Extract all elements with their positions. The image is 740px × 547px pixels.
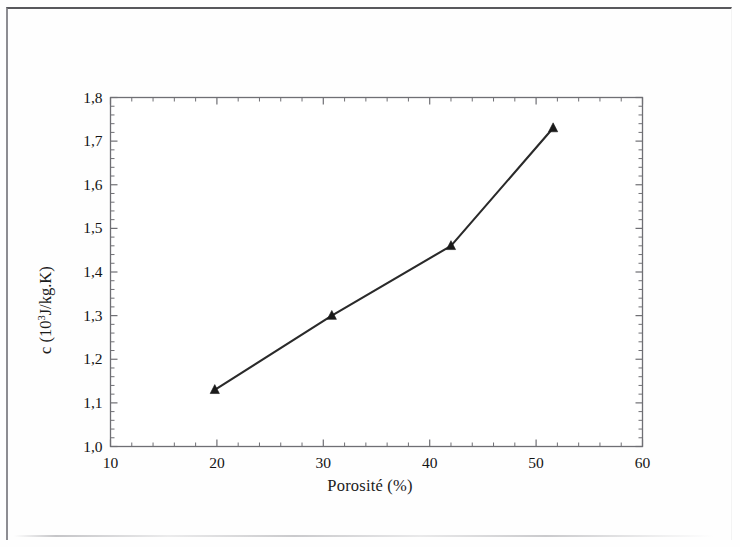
- y-axis-title-suffix: J/kg.K): [36, 266, 55, 315]
- x-tick-label-40: 40: [422, 454, 438, 472]
- y-tick-label-1,8: 1,8: [83, 89, 102, 107]
- y-tick-label-1,2: 1,2: [83, 350, 102, 368]
- y-axis-title-exponent: 3: [36, 315, 47, 320]
- y-tick-label-1,4: 1,4: [83, 263, 102, 281]
- x-tick-label-20: 20: [209, 454, 225, 472]
- x-tick-label-50: 50: [528, 454, 544, 472]
- x-tick-label-10: 10: [103, 454, 119, 472]
- y-axis-title: c (103J/kg.K): [36, 266, 56, 354]
- x-axis-title: Porosité (%): [0, 476, 740, 496]
- chart-figure: 102030405060 1,01,11,21,31,41,51,61,71,8…: [0, 0, 740, 547]
- y-tick-label-1,0: 1,0: [83, 438, 102, 456]
- scanned-page: 102030405060 1,01,11,21,31,41,51,61,71,8…: [0, 0, 740, 547]
- y-tick-label-1,7: 1,7: [83, 132, 102, 150]
- y-tick-label-1,3: 1,3: [83, 307, 102, 325]
- y-tick-label-1,1: 1,1: [83, 394, 102, 412]
- plot-area-rect: [111, 98, 643, 447]
- y-axis-title-prefix: c (10: [36, 321, 55, 354]
- y-tick-label-1,6: 1,6: [83, 176, 102, 194]
- y-tick-label-1,5: 1,5: [83, 219, 102, 237]
- plot-frame: [111, 98, 643, 447]
- x-tick-label-30: 30: [316, 454, 332, 472]
- x-tick-label-60: 60: [635, 454, 651, 472]
